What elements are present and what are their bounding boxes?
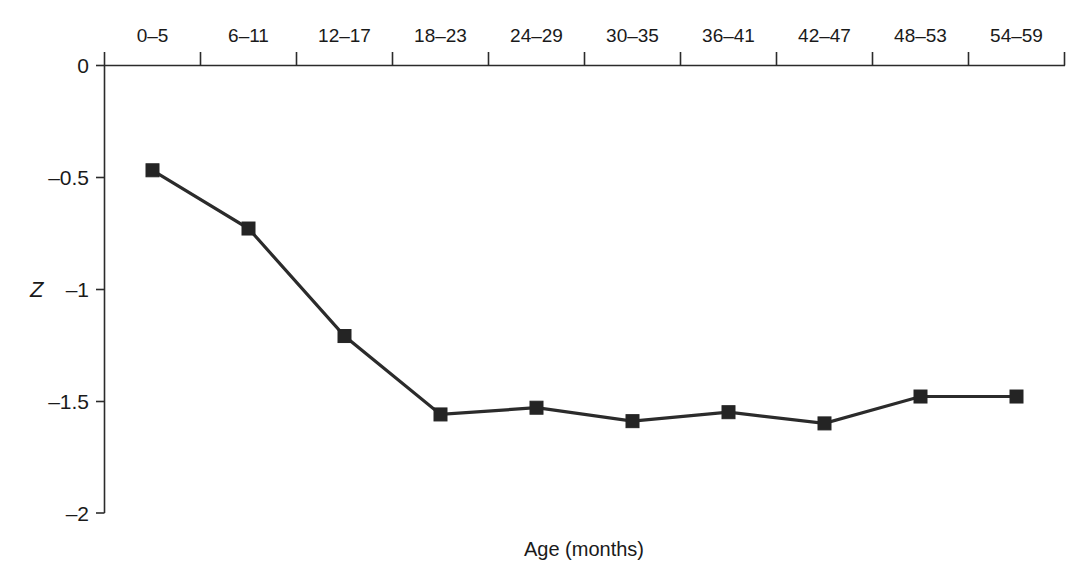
y-tick-label: –1 (66, 278, 89, 301)
x-tick-labels: 0–5 6–11 12–17 18–23 24–29 30–35 36–41 4… (137, 25, 1043, 46)
data-point-marker (722, 406, 735, 419)
x-tick-label: 30–35 (606, 25, 659, 46)
x-tick-label: 36–41 (702, 25, 755, 46)
x-axis-title: Age (months) (524, 538, 644, 560)
data-point-marker (338, 330, 351, 343)
y-tick-label: –1.5 (48, 390, 89, 413)
data-point-markers (146, 164, 1023, 430)
line-chart-canvas: 0 –0.5 –1 –1.5 –2 0–5 6–11 12–17 18–23 2… (0, 0, 1082, 581)
y-axis-title: Z (29, 277, 45, 302)
x-tick-label: 24–29 (510, 25, 563, 46)
y-tick-marks (96, 66, 105, 514)
chart-figure: 0 –0.5 –1 –1.5 –2 0–5 6–11 12–17 18–23 2… (0, 0, 1082, 581)
data-point-marker (242, 222, 255, 235)
x-tick-label: 12–17 (318, 25, 371, 46)
data-point-marker (818, 417, 831, 430)
x-tick-label: 18–23 (414, 25, 467, 46)
data-point-marker (626, 415, 639, 428)
y-tick-label: 0 (77, 54, 89, 77)
x-tick-label: 6–11 (228, 25, 269, 46)
y-tick-label: –2 (66, 502, 89, 525)
y-tick-label: –0.5 (48, 166, 89, 189)
y-tick-labels: 0 –0.5 –1 –1.5 –2 (48, 54, 89, 525)
data-point-marker (146, 164, 159, 177)
data-series-line (153, 170, 1017, 423)
x-tick-label: 0–5 (137, 25, 169, 46)
data-point-marker (434, 408, 447, 421)
x-tick-label: 42–47 (798, 25, 851, 46)
x-tick-marks (105, 52, 1065, 66)
x-tick-label: 54–59 (990, 25, 1043, 46)
data-point-marker (914, 390, 927, 403)
data-point-marker (530, 401, 543, 414)
x-tick-label: 48–53 (894, 25, 947, 46)
data-point-marker (1010, 390, 1023, 403)
